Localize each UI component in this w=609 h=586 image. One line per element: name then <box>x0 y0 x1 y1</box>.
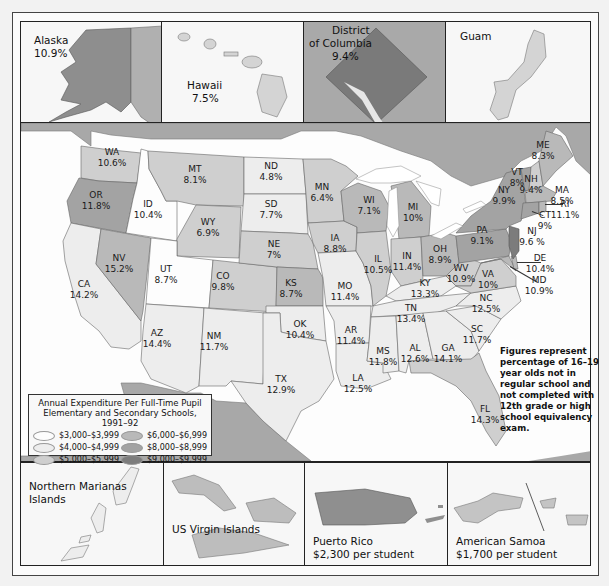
leader-line-ri <box>545 204 563 205</box>
state-abbr: PA <box>471 225 494 236</box>
state-label-il: IL10.5% <box>364 254 393 276</box>
state-value: 11.8% <box>369 357 398 368</box>
state-value: 11.4% <box>337 336 366 347</box>
state-abbr: WA <box>98 147 127 158</box>
inset-alaska: Alaska 10.9% <box>20 21 162 123</box>
alaska-label: Alaska <box>34 34 68 47</box>
state-label-de: DE10.4% <box>526 253 555 275</box>
state-label-id: ID10.4% <box>134 199 163 221</box>
inset-hawaii: Hawaii 7.5% <box>161 21 304 123</box>
marianas-label-line1: Northern Marianas <box>29 480 127 493</box>
state-label-in: IN11.4% <box>393 251 422 273</box>
legend-swatch <box>121 455 143 465</box>
state-value: 14.4% <box>143 339 172 350</box>
state-label-ms: MS11.8% <box>369 346 398 368</box>
legend-item: $5,000–$5,999 <box>33 454 119 465</box>
state-abbr: AZ <box>143 328 172 339</box>
inset-guam: Guam <box>445 21 591 123</box>
state-label-ia: IA8.8% <box>324 233 347 255</box>
guam-label: Guam <box>460 30 491 43</box>
state-value: 11.4% <box>331 292 360 303</box>
state-abbr: ID <box>134 199 163 210</box>
state-abbr: ND <box>260 161 283 172</box>
state-label-ky: KY13.3% <box>411 278 440 300</box>
state-abbr: MN <box>311 182 334 193</box>
state-abbr: IL <box>364 254 393 265</box>
state-value: 12.6% <box>401 354 430 365</box>
state-abbr: OR <box>82 190 111 201</box>
state-abbr: NH <box>520 174 543 185</box>
state-label-wi: WI7.1% <box>358 195 381 217</box>
state-abbr: CA <box>70 279 99 290</box>
state-abbr: GA <box>434 343 463 354</box>
state-abbr: MS <box>369 346 398 357</box>
state-value: 8.1% <box>184 175 207 186</box>
dc-value: 9.4% <box>332 50 359 63</box>
virgin-islands-shape <box>164 463 305 566</box>
virgin-islands-label: US Virgin Islands <box>172 523 260 536</box>
state-label-ga: GA14.1% <box>434 343 463 365</box>
puerto-rico-label: Puerto Rico <box>313 535 373 548</box>
legend-label: $4,000–$4,999 <box>59 442 119 453</box>
state-fl <box>409 353 506 446</box>
legend-label: $8,000–$8,999 <box>147 442 207 453</box>
state-label-ca: CA14.2% <box>70 279 99 301</box>
state-label-nm: NM11.7% <box>200 331 229 353</box>
state-abbr: SC <box>463 324 492 335</box>
state-label-nh: NH9.4% <box>520 174 543 196</box>
state-nj <box>509 226 519 259</box>
state-label-or: OR11.8% <box>82 190 111 212</box>
state-label-ut: UT8.7% <box>155 264 178 286</box>
state-label-ri: RI11.1% <box>551 199 580 221</box>
hawaii-value: 7.5% <box>192 92 219 105</box>
state-abbr: NM <box>200 331 229 342</box>
state-abbr: NJ <box>519 226 545 237</box>
state-value: 11.4% <box>393 262 422 273</box>
state-value: 9.8% <box>212 282 235 293</box>
state-value: 11.1% <box>551 210 580 221</box>
legend-label: $5,000–$5,999 <box>59 454 119 465</box>
state-value: 10.4% <box>286 330 315 341</box>
state-value: 9.9% <box>493 196 516 207</box>
state-label-tn: TN13.4% <box>397 303 426 325</box>
state-value: 10.4% <box>134 210 163 221</box>
state-label-fl: FL14.3% <box>471 404 500 426</box>
state-abbr: LA <box>344 373 373 384</box>
legend-item: $9,000–$9,999 <box>121 454 207 465</box>
puerto-rico-spend: $2,300 per student <box>313 548 414 561</box>
state-abbr: MO <box>331 281 360 292</box>
state-abbr: CO <box>212 271 235 282</box>
state-value: 11.7% <box>463 335 492 346</box>
state-abbr: KS <box>280 278 303 289</box>
state-label-wy: WY6.9% <box>197 217 220 239</box>
state-abbr: IN <box>393 251 422 262</box>
state-label-wv: WV10.9% <box>447 263 476 285</box>
state-value: 10% <box>478 280 498 291</box>
state-label-nd: ND4.8% <box>260 161 283 183</box>
state-label-me: ME8.3% <box>532 140 555 162</box>
state-abbr: IA <box>324 233 347 244</box>
inset-us-virgin-islands: US Virgin Islands <box>163 462 305 566</box>
legend-swatch <box>33 443 55 453</box>
state-abbr: CT <box>538 210 552 221</box>
state-value: 9.1% <box>471 236 494 247</box>
figures-note: Figures represent percentage of 16–19 ye… <box>500 346 600 434</box>
state-value: 6.9% <box>197 228 220 239</box>
state-value: 14.3% <box>471 415 500 426</box>
legend-title-line2: Elementary and Secondary Schools, 1991–9… <box>33 408 207 428</box>
dc-label-line1: District <box>332 24 370 37</box>
state-value: 12.5% <box>344 384 373 395</box>
state-label-ne: NE7% <box>267 239 281 261</box>
state-abbr: MI <box>403 202 423 213</box>
legend-label: $3,000–$3,999 <box>59 430 119 441</box>
marianas-label-line2: Islands <box>29 493 66 506</box>
state-abbr: NV <box>105 253 134 264</box>
legend: Annual Expenditure Per Full-Time Pupil E… <box>28 394 212 456</box>
leader-line-de <box>517 262 541 263</box>
state-label-sd: SD7.7% <box>260 199 283 221</box>
state-label-wa: WA10.6% <box>98 147 127 169</box>
state-label-nc: NC12.5% <box>472 293 501 315</box>
state-value: 8.7% <box>155 275 178 286</box>
cuba-region <box>516 451 591 462</box>
state-abbr: KY <box>411 278 440 289</box>
